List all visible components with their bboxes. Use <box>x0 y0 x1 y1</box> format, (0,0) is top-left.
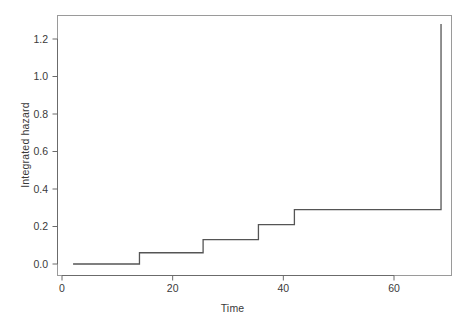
y-tick-label: 0.4 <box>33 183 48 195</box>
x-axis-ticks: 0204060 <box>59 276 400 295</box>
step-curve-series <box>73 24 441 264</box>
x-tick-label: 40 <box>277 282 289 294</box>
y-tick-label: 0.6 <box>33 145 48 157</box>
x-axis-label: Time <box>0 302 465 314</box>
y-tick-label: 1.0 <box>33 70 48 82</box>
x-tick-label: 0 <box>59 282 65 294</box>
x-tick-label: 60 <box>388 282 400 294</box>
y-axis-ticks: 0.00.20.40.60.81.01.2 <box>33 33 57 270</box>
y-tick-label: 0.0 <box>33 258 48 270</box>
y-tick-label: 1.2 <box>33 33 48 45</box>
chart-figure: 0.00.20.40.60.81.01.2 0204060 Time Integ… <box>0 0 465 323</box>
y-axis-label: Integrated hazard <box>19 65 31 225</box>
x-tick-label: 20 <box>167 282 179 294</box>
integrated-hazard-step-plot: 0.00.20.40.60.81.01.2 0204060 <box>0 0 465 323</box>
plot-frame <box>58 16 452 276</box>
y-tick-label: 0.8 <box>33 108 48 120</box>
y-tick-label: 0.2 <box>33 220 48 232</box>
